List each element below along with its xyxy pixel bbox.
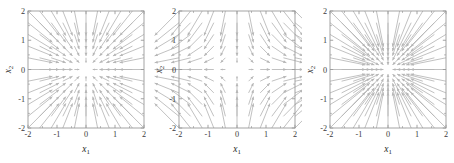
x-tick-label: 2 [293,130,297,139]
x-axis-title: x1 [232,144,241,155]
x-tick-label: -2 [327,130,334,139]
x-tick-label: 2 [444,130,448,139]
x-tick-label: 1 [113,130,117,139]
y-tick-label: -2 [169,124,176,133]
y-tick-label: 1 [21,36,25,45]
y-tick-label: 2 [21,7,25,16]
x-tick-label: 0 [235,130,239,139]
quiver-plot-2: -2-1012-2-1012x1x2 [151,0,302,163]
x-tick-label: 1 [264,130,268,139]
y-tick-label: 0 [21,66,25,75]
quiver-plot-1: -2-1012-2-1012x1x2 [0,0,151,163]
x-tick-label: -1 [54,130,61,139]
x-axis-title: x1 [383,144,392,155]
x-tick-label: -1 [356,130,363,139]
y-tick-label: 1 [172,36,176,45]
vector-field-figure: -2-1012-2-1012x1x2 -2-1012-2-1012x1x2 -2… [0,0,454,163]
y-tick-label: -1 [320,95,327,104]
x-tick-label: 1 [415,130,419,139]
y-axis-title: x2 [154,65,165,74]
y-tick-label: -2 [320,124,327,133]
y-tick-label: 0 [323,66,327,75]
y-tick-label: 2 [323,7,327,16]
y-tick-label: 1 [323,36,327,45]
x-axis-title: x1 [81,144,90,155]
plot-panel-2: -2-1012-2-1012x1x2 [151,0,302,163]
y-tick-label: -2 [18,124,25,133]
x-tick-label: 0 [84,130,88,139]
x-tick-label: -2 [176,130,183,139]
x-tick-label: -2 [25,130,32,139]
y-axis-title: x2 [3,65,14,74]
x-tick-label: 2 [142,130,146,139]
plot-panel-1: -2-1012-2-1012x1x2 [0,0,151,163]
plot-panel-3: -2-1012-2-1012x1x2 [302,0,453,163]
x-tick-label: 0 [386,130,390,139]
y-tick-label: -1 [169,95,176,104]
y-tick-label: -1 [18,95,25,104]
y-tick-label: 0 [172,66,176,75]
y-tick-label: 2 [172,7,176,16]
y-axis-title: x2 [305,65,316,74]
quiver-plot-3: -2-1012-2-1012x1x2 [302,0,453,163]
x-tick-label: -1 [205,130,212,139]
